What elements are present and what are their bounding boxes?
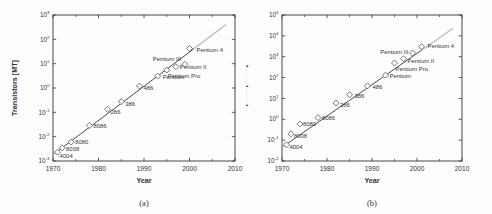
y-axis-ticks: 10310210110010-110-210-3 <box>38 10 235 164</box>
data-point-8086 <box>86 122 92 128</box>
y-tick-label: 10-2 <box>267 156 279 164</box>
y-axis-ticks: 10510410310210110010-110-2 <box>267 10 462 164</box>
x-tick-label: 2000 <box>182 165 197 172</box>
trend-line-extension <box>194 25 226 49</box>
point-label-8086: 8086 <box>93 123 107 129</box>
x-axis-ticks: 19701980199020002010 <box>275 15 470 172</box>
y-tick-label: 100 <box>269 114 279 122</box>
y-tick-label: 102 <box>269 73 279 81</box>
y-axis-label: Transistors [MT] <box>10 60 19 116</box>
transistors-vs-year-chart: 1970198019902000201010310210110010-110-2… <box>0 0 246 214</box>
x-tick-label: 1970 <box>275 165 290 172</box>
data-point-386 <box>118 99 124 105</box>
y-tick-label: 100 <box>40 83 50 91</box>
data-points: 4004800880808086286386486PentiumPentium … <box>55 46 224 160</box>
y-tick-label: 101 <box>40 59 50 67</box>
data-point-286 <box>333 100 339 106</box>
point-label-8080: 8080 <box>75 139 89 145</box>
point-label-pentium-iii: Pentium III <box>380 49 409 55</box>
point-label-486: 486 <box>373 84 384 90</box>
x-tick-label: 1980 <box>320 165 335 172</box>
point-label-pentium: Pentium <box>390 73 412 79</box>
y-tick-label: 101 <box>269 94 279 102</box>
y-tick-label: 103 <box>40 10 50 18</box>
point-label-8008: 8008 <box>294 133 308 139</box>
point-label-pentium-4: Pentium 4 <box>428 43 455 49</box>
point-label-386: 386 <box>125 101 136 107</box>
data-point-8086 <box>315 115 321 121</box>
x-tick-label: 2010 <box>228 165 243 172</box>
y-tick-label: 103 <box>269 52 279 60</box>
data-point-386 <box>347 92 353 98</box>
point-label-286: 286 <box>111 109 122 115</box>
point-label-pentium-ii: Pentium II <box>408 58 435 64</box>
x-axis-label: Year <box>364 176 379 185</box>
y-tick-label: 10-2 <box>38 132 50 140</box>
point-label-8086: 8086 <box>322 115 336 121</box>
panel-caption: (b) <box>367 198 377 208</box>
point-label-pentium-pro: Pentium Pro <box>168 73 201 79</box>
x-tick-label: 2010 <box>455 165 470 172</box>
point-label-4004: 4004 <box>290 144 304 150</box>
point-label-8080: 8080 <box>303 121 317 127</box>
point-label-8008: 8008 <box>66 146 80 152</box>
x-tick-label: 1990 <box>137 165 152 172</box>
y-tick-label: 102 <box>40 35 50 43</box>
y-axis-label: Speed [MIPS] <box>246 65 248 111</box>
y-tick-label: 104 <box>269 31 279 39</box>
speed-vs-year-chart: 1970198019902000201010510410310210110010… <box>246 0 492 214</box>
page: { "page": { "background": "#fdfdfd" }, "… <box>0 0 492 214</box>
x-tick-label: 1970 <box>46 165 61 172</box>
y-tick-label: 10-3 <box>38 156 50 164</box>
figure-a: 1970198019902000201010310210110010-110-2… <box>0 0 246 214</box>
point-label-286: 286 <box>340 102 351 108</box>
panel-caption: (a) <box>139 198 149 208</box>
point-label-pentium-4: Pentium 4 <box>197 47 224 53</box>
point-label-4004: 4004 <box>60 153 74 159</box>
figure-row: 1970198019902000201010310210110010-110-2… <box>0 0 492 214</box>
y-tick-label: 10-1 <box>267 135 279 143</box>
y-tick-label: 10-1 <box>38 108 50 116</box>
x-tick-label: 1980 <box>91 165 106 172</box>
point-label-386: 386 <box>355 93 366 99</box>
point-label-pentium-pro: Pentium Pro <box>396 66 429 72</box>
x-tick-label: 1990 <box>365 165 380 172</box>
figure-b: 1970198019902000201010510410310210110010… <box>246 0 492 214</box>
x-axis-label: Year <box>136 176 151 185</box>
data-point-486 <box>365 83 371 89</box>
point-label-486: 486 <box>143 85 154 91</box>
data-points: 4004800880808086286386486PentiumPentium … <box>284 43 455 150</box>
x-tick-label: 2000 <box>410 165 425 172</box>
point-label-pentium-iii: Pentium III <box>153 56 182 62</box>
y-tick-label: 105 <box>269 10 279 18</box>
data-point-pentium-ii <box>173 64 179 70</box>
